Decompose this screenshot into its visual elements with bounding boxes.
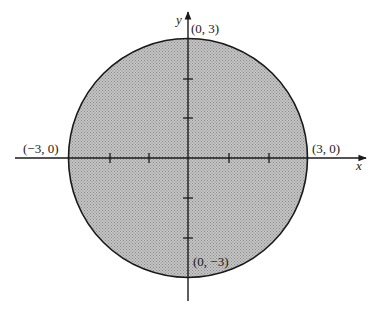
point-label-left: (−3, 0) [23, 141, 59, 156]
y-axis-label: y [174, 12, 182, 27]
x-axis-label: x [355, 158, 362, 173]
point-label-bottom: (0, −3) [193, 254, 229, 269]
disk-diagram: y x (0, 3) (−3, 0) (3, 0) (0, −3) [0, 0, 376, 311]
point-label-top: (0, 3) [191, 21, 219, 36]
point-label-right: (3, 0) [312, 141, 340, 156]
